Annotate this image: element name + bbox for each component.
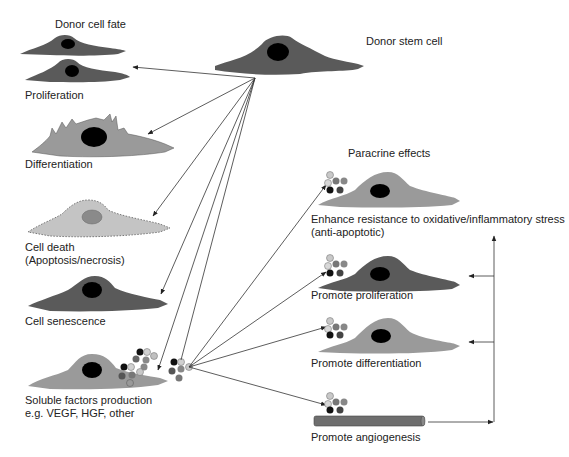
fate-sublabel-cell-death: (Apoptosis/necrosis) [25, 253, 125, 267]
effect-label-angiogenesis: Promote angiogenesis [311, 430, 420, 444]
effect-sublabel-resistance: (anti-apoptotic) [311, 225, 384, 239]
proliferation-cell-top [20, 35, 126, 56]
donor-stem-cell-label: Donor stem cell [366, 34, 442, 48]
fate-arrows [133, 67, 255, 370]
effect-label-resistance: Enhance resistance to oxidative/inflamma… [311, 212, 565, 226]
senescence-cell [28, 276, 168, 311]
paracrine-arrows [189, 185, 326, 405]
resistance-cell [318, 172, 460, 208]
diagram-canvas [0, 0, 569, 457]
fate-label-senescence: Cell senescence [25, 314, 106, 328]
proliferation-target-cell [318, 255, 460, 292]
fate-label-proliferation: Proliferation [25, 88, 84, 102]
feedback-bracket [428, 236, 494, 422]
donor-stem-cell [215, 36, 364, 75]
fate-label-differentiation: Differentiation [25, 157, 93, 171]
proliferation-cell-bottom [25, 59, 130, 82]
effect-label-differentiation: Promote differentiation [311, 356, 421, 370]
fate-label-cell-death: Cell death [25, 240, 75, 254]
fate-label-soluble-factors: Soluble factors production [25, 393, 152, 407]
differentiation-target-cell [318, 318, 460, 354]
effect-label-proliferation: Promote proliferation [311, 288, 413, 302]
diagram-title: Donor cell fate [55, 17, 126, 31]
paracrine-title: Paracrine effects [348, 146, 430, 160]
angiogenesis-vessel [314, 393, 425, 427]
fate-sublabel-soluble-factors: e.g. VEGF, HGF, other [25, 406, 134, 420]
differentiation-cell [32, 114, 174, 157]
cell-death-cell [28, 200, 170, 237]
